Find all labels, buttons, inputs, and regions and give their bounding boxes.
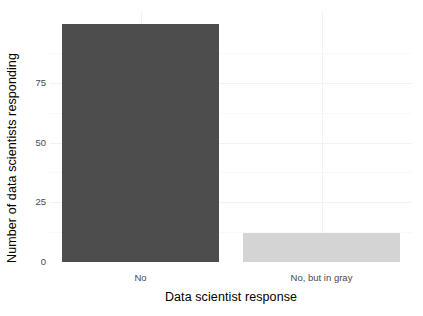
x-axis-title: Data scientist response — [50, 290, 412, 304]
plot-panel — [50, 12, 412, 262]
bar-chart: Number of data scientists responding 0 2… — [0, 0, 423, 316]
y-tick-label-75: 75 — [20, 78, 46, 88]
y-tick-label-25: 25 — [20, 198, 46, 208]
y-tick-label-0: 0 — [20, 257, 46, 267]
bar-no[interactable] — [62, 24, 218, 262]
x-tick-label-no-but-in-gray: No, but in gray — [291, 272, 353, 283]
x-tick-label-no: No — [134, 272, 146, 283]
gridline-x-no-but-in-gray — [322, 12, 323, 262]
y-axis-tick-labels: 0 25 50 75 — [18, 0, 46, 316]
x-axis-baseline — [50, 262, 412, 263]
y-tick-label-50: 50 — [20, 138, 46, 148]
bar-no-but-in-gray[interactable] — [243, 233, 399, 262]
